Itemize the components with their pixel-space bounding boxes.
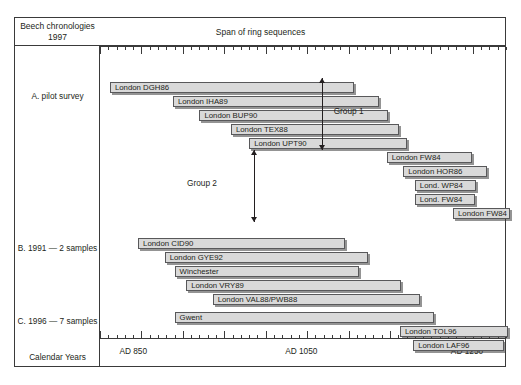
axis-tick-minor: [150, 47, 151, 50]
axis-tick-minor: [233, 335, 234, 338]
axis-tick-minor: [332, 47, 333, 50]
axis-tick-minor: [249, 47, 250, 50]
chart-title-line2: 1997: [48, 32, 67, 43]
chronology-bar: London LAF96: [413, 340, 504, 351]
axis-tick-minor: [175, 335, 176, 338]
axis-tick-minor: [465, 47, 466, 50]
axis-tick-minor: [373, 47, 374, 50]
chart-title-line1: Beech chronologies: [20, 21, 95, 32]
axis-tick-minor: [125, 335, 126, 338]
plot-area: AD 850AD 1050AD 1250 London DGH86London …: [100, 46, 505, 366]
group-range-arrow: [254, 150, 255, 222]
bottom-axis-rule: [100, 338, 505, 339]
header-band: Beech chronologies 1997 Span of ring seq…: [15, 18, 505, 46]
axis-tick-minor: [150, 335, 151, 338]
axis-label-column: Calendar Years: [15, 46, 100, 366]
axis-tick-major: [183, 331, 184, 338]
chronology-bar: Gwent: [175, 312, 434, 323]
axis-tick-minor: [233, 47, 234, 50]
x-axis-tick-label: AD 850: [119, 346, 147, 356]
axis-tick-minor: [191, 47, 192, 50]
axis-tick-minor: [340, 47, 341, 50]
axis-tick-major: [100, 47, 101, 54]
axis-tick-minor: [249, 335, 250, 338]
top-axis: [100, 46, 505, 55]
axis-tick-minor: [257, 47, 258, 50]
chronology-bar: London VRY89: [186, 280, 401, 291]
axis-tick-minor: [133, 47, 134, 50]
axis-tick-major: [307, 331, 308, 338]
axis-tick-major: [141, 47, 142, 54]
axis-tick-minor: [481, 47, 482, 50]
chronology-bar: London UPT90: [249, 138, 406, 149]
axis-tick-major: [141, 331, 142, 338]
axis-tick-major: [431, 47, 432, 54]
axis-tick-major: [390, 331, 391, 338]
axis-tick-minor: [340, 335, 341, 338]
axis-tick-minor: [158, 335, 159, 338]
axis-tick-minor: [291, 47, 292, 50]
axis-tick-minor: [365, 47, 366, 50]
axis-tick-minor: [324, 47, 325, 50]
chart-subtitle-text: Span of ring sequences: [216, 27, 305, 37]
axis-tick-minor: [365, 335, 366, 338]
axis-tick-minor: [332, 335, 333, 338]
chart-subtitle: Span of ring sequences: [100, 18, 505, 46]
axis-tick-minor: [125, 47, 126, 50]
axis-tick-minor: [382, 335, 383, 338]
chronology-bar: Winchester: [175, 266, 359, 277]
axis-tick-minor: [282, 47, 283, 50]
chronology-bar: London TOL96: [400, 326, 508, 337]
axis-tick-minor: [291, 335, 292, 338]
chronology-bar: London VAL88/PWB88: [213, 294, 420, 305]
axis-tick-minor: [117, 335, 118, 338]
chart-frame: Beech chronologies 1997 Span of ring seq…: [14, 17, 506, 367]
axis-tick-minor: [166, 47, 167, 50]
axis-tick-minor: [117, 47, 118, 50]
axis-tick-minor: [257, 335, 258, 338]
axis-tick-minor: [315, 47, 316, 50]
axis-tick-minor: [506, 47, 507, 50]
chronology-bar: London DGH86: [110, 82, 354, 93]
axis-tick-major: [266, 47, 267, 54]
axis-tick-major: [224, 47, 225, 54]
axis-tick-major: [390, 47, 391, 54]
axis-tick-minor: [191, 335, 192, 338]
group-range-arrow: [322, 78, 323, 150]
axis-tick-minor: [415, 47, 416, 50]
axis-tick-minor: [489, 47, 490, 50]
chronology-bar: London FW84: [453, 208, 510, 219]
axis-tick-minor: [158, 47, 159, 50]
axis-tick-minor: [133, 335, 134, 338]
axis-tick-minor: [208, 47, 209, 50]
axis-tick-minor: [108, 335, 109, 338]
axis-tick-minor: [448, 47, 449, 50]
axis-tick-minor: [199, 335, 200, 338]
chronology-bar: Lond. WP84: [415, 180, 476, 191]
axis-tick-minor: [208, 335, 209, 338]
axis-tick-major: [473, 47, 474, 54]
axis-tick-minor: [216, 335, 217, 338]
axis-tick-minor: [315, 335, 316, 338]
axis-tick-minor: [299, 47, 300, 50]
axis-tick-minor: [108, 47, 109, 50]
axis-tick-minor: [166, 335, 167, 338]
axis-tick-major: [100, 331, 101, 338]
axis-tick-minor: [423, 47, 424, 50]
axis-tick-minor: [241, 47, 242, 50]
axis-tick-minor: [498, 47, 499, 50]
chronology-bar: London CID90: [138, 238, 345, 249]
axis-tick-minor: [357, 335, 358, 338]
axis-tick-minor: [241, 335, 242, 338]
chronology-bar: London GYE92: [165, 252, 368, 263]
chart-title: Beech chronologies 1997: [15, 18, 100, 46]
axis-tick-minor: [407, 47, 408, 50]
axis-tick-minor: [199, 47, 200, 50]
axis-tick-minor: [274, 335, 275, 338]
group-label: Group 1: [334, 106, 364, 116]
axis-tick-minor: [456, 47, 457, 50]
chronology-bar: London TEX88: [231, 124, 399, 135]
axis-tick-minor: [382, 47, 383, 50]
group-label: Group 2: [187, 178, 217, 188]
axis-tick-minor: [440, 47, 441, 50]
